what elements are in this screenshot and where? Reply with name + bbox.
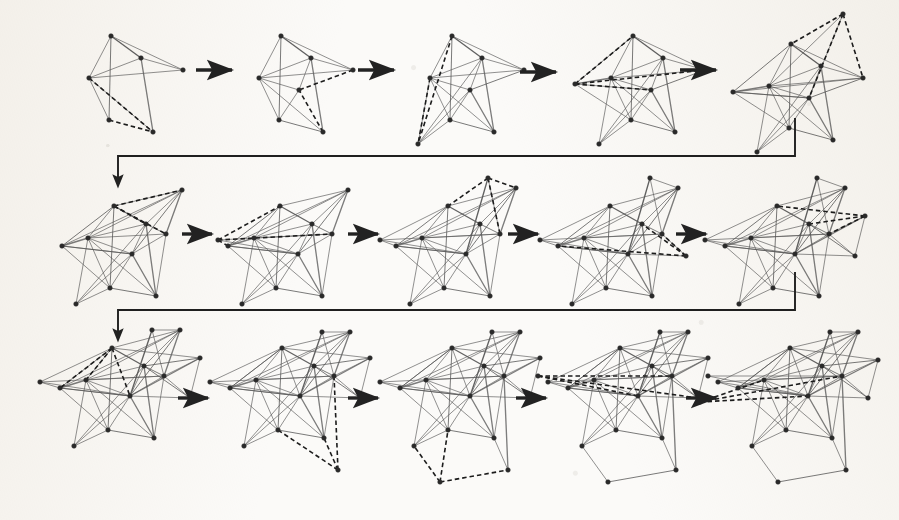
graph-panel-14 xyxy=(536,330,711,485)
graph-edge-new-dashed xyxy=(334,376,338,470)
graph-edge xyxy=(757,66,821,152)
graph-panel-10 xyxy=(703,176,868,307)
graph-node xyxy=(876,358,881,363)
graph-edge xyxy=(228,190,348,246)
graph-panel-2 xyxy=(257,34,356,135)
graph-edge xyxy=(584,238,652,296)
graph-edge xyxy=(254,238,322,296)
graph-edge xyxy=(414,396,470,446)
graph-node xyxy=(139,56,144,61)
graph-edge xyxy=(739,288,773,304)
graph-node xyxy=(128,394,133,399)
graph-edge xyxy=(426,366,484,380)
graph-edge xyxy=(88,234,166,238)
graph-node xyxy=(320,330,325,335)
graph-node xyxy=(856,330,861,335)
graph-node xyxy=(276,428,281,433)
nodes-group xyxy=(536,330,711,485)
graph-edge xyxy=(300,396,324,438)
graph-panel-1 xyxy=(87,34,186,135)
graph-node xyxy=(142,364,147,369)
graph-edge xyxy=(141,58,153,132)
graph-edge xyxy=(790,348,808,396)
graph-edge xyxy=(822,332,858,366)
graph-edge xyxy=(829,234,855,256)
graph-edge xyxy=(778,470,846,482)
graph-edge xyxy=(650,178,678,188)
graph-edge xyxy=(757,128,789,152)
graph-edge xyxy=(718,348,790,382)
graph-node xyxy=(492,436,497,441)
graph-node xyxy=(608,204,613,209)
graph-edge xyxy=(582,430,616,446)
graph-node xyxy=(670,374,675,379)
graph-node xyxy=(592,378,597,383)
graph-node xyxy=(498,232,503,237)
graph-edge xyxy=(584,206,610,238)
graph-node xyxy=(351,68,356,73)
graph-node xyxy=(450,346,455,351)
graph-node xyxy=(310,222,315,227)
graph-node xyxy=(597,142,602,147)
graph-node xyxy=(853,254,858,259)
graph-edge xyxy=(652,332,688,366)
graph-node xyxy=(629,118,634,123)
graph-edge xyxy=(594,332,688,380)
graph-node xyxy=(480,56,485,61)
graph-node xyxy=(198,356,203,361)
graph-node xyxy=(58,386,63,391)
graph-node xyxy=(787,126,792,131)
graph-edge xyxy=(470,396,494,438)
new-edges-group xyxy=(418,36,452,144)
graph-edge xyxy=(452,348,470,396)
graph-node xyxy=(767,84,772,89)
graph-edge xyxy=(89,36,111,78)
graph-node xyxy=(674,468,679,473)
graph-node xyxy=(312,364,317,369)
graph-edge xyxy=(752,446,778,482)
graph-edge-new-dashed xyxy=(278,430,338,470)
graph-node xyxy=(618,346,623,351)
graph-node xyxy=(394,244,399,249)
graph-edge xyxy=(494,376,504,438)
graph-panel-3 xyxy=(416,34,527,147)
graph-edge xyxy=(400,332,520,388)
graph-edge xyxy=(448,430,494,438)
graph-node xyxy=(806,394,811,399)
graph-edge xyxy=(611,36,633,78)
graph-node xyxy=(296,252,301,257)
graph-edge xyxy=(868,360,878,398)
graph-edge xyxy=(620,348,708,358)
graph-node xyxy=(828,330,833,335)
graph-edge xyxy=(484,366,530,398)
graph-edge xyxy=(631,90,651,120)
graph-node xyxy=(240,302,245,307)
edges-group xyxy=(575,36,705,144)
graph-panel-12 xyxy=(208,330,373,473)
graph-edge xyxy=(633,36,663,58)
graph-edge xyxy=(809,188,845,224)
graph-node xyxy=(819,64,824,69)
graph-node xyxy=(650,364,655,369)
graph-edge xyxy=(426,348,452,380)
graph-edge xyxy=(254,206,280,238)
graph-edge xyxy=(156,234,166,296)
graph-node xyxy=(649,88,654,93)
graph-edge xyxy=(144,366,164,376)
graph-edge xyxy=(89,58,141,78)
graph-node xyxy=(278,204,283,209)
graph-edge xyxy=(88,224,146,238)
graph-node xyxy=(482,364,487,369)
graph-node xyxy=(570,302,575,307)
edges-group xyxy=(548,332,708,482)
graph-node xyxy=(162,374,167,379)
graph-node xyxy=(297,88,302,93)
graph-edge xyxy=(242,254,298,304)
graph-node xyxy=(684,254,689,259)
graph-node xyxy=(420,236,425,241)
graph-panel-5 xyxy=(731,12,866,155)
graph-edge xyxy=(662,376,672,438)
graph-edge xyxy=(89,78,109,120)
edges-group xyxy=(733,14,863,152)
graph-edge-new-dashed xyxy=(414,446,440,482)
